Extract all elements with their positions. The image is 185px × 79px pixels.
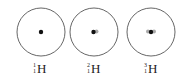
atomic-number: 1 <box>33 68 36 74</box>
element-symbol: H <box>37 62 46 75</box>
atomic-number: 1 <box>87 68 90 74</box>
atom-protium <box>17 8 65 56</box>
element-symbol: H <box>91 62 100 75</box>
proton <box>91 30 95 34</box>
atom-tritium <box>127 8 175 56</box>
isotope-label-deuterium: 2 1 H <box>87 60 100 76</box>
atomic-number: 1 <box>144 68 147 74</box>
element-symbol: H <box>148 62 157 75</box>
proton <box>149 30 153 34</box>
isotope-label-tritium: 3 1 H <box>144 60 157 76</box>
proton <box>39 30 43 34</box>
isotope-label-protium: 1 1 H <box>33 60 46 76</box>
atom-deuterium <box>70 8 118 56</box>
